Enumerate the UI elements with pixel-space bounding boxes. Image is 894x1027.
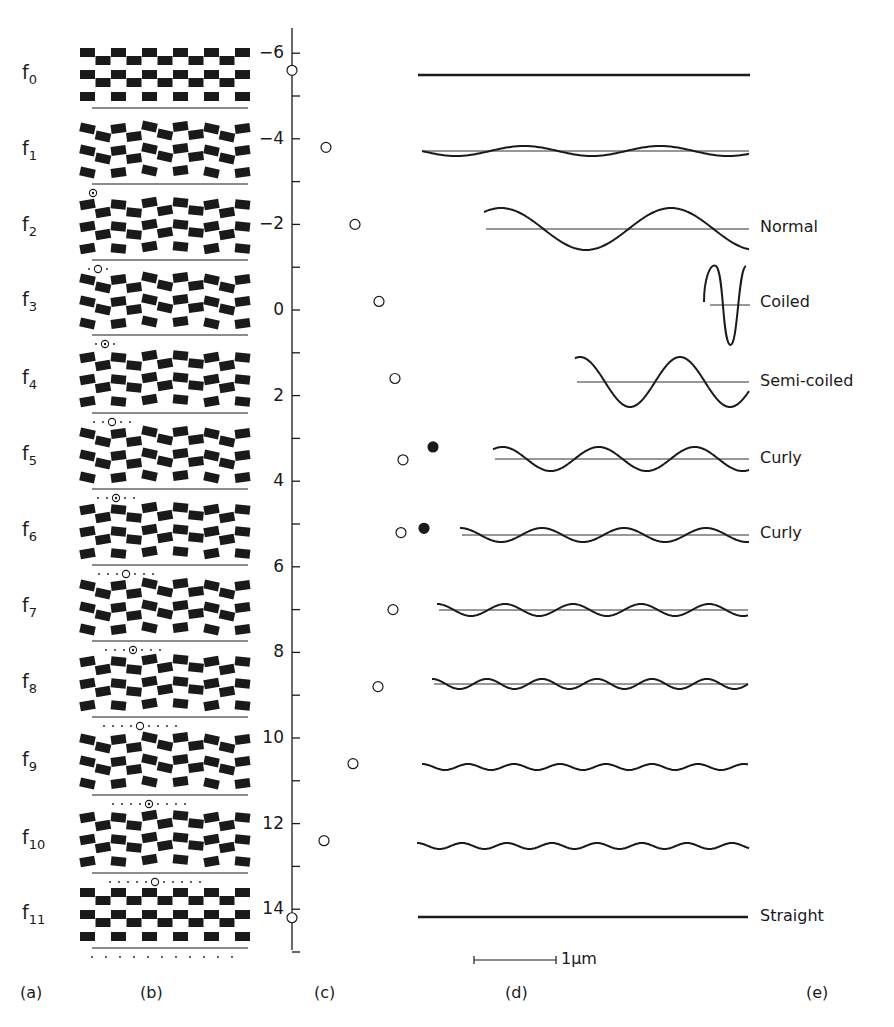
scale-bar [474, 956, 556, 964]
figure-canvas [0, 0, 894, 1027]
open-circle-point [390, 373, 400, 383]
axis-marker-icon [151, 878, 158, 885]
row-label-f11: f11 [22, 903, 45, 926]
shape-label-curly: Curly [760, 450, 802, 466]
axis-marker-icon [122, 570, 129, 577]
axis-tick-label: −2 [244, 215, 284, 232]
open-circle-point [398, 455, 408, 465]
axis-tick-label: 2 [244, 387, 284, 404]
lattice-f1 [79, 121, 250, 197]
open-circle-point [388, 605, 398, 615]
axis-tick-label: 4 [244, 472, 284, 489]
axis-marker-icon [136, 722, 143, 729]
open-circle-point [287, 913, 297, 923]
axis-tick-label: −4 [244, 130, 284, 147]
axis-tick-label: 6 [244, 558, 284, 575]
filled-circle-point [428, 442, 438, 452]
open-circle-point [374, 296, 384, 306]
row-label-f8: f8 [22, 672, 37, 695]
lattice-f9 [79, 732, 250, 808]
row-label-f0: f0 [22, 63, 37, 86]
row-label-f5: f5 [22, 444, 37, 467]
shape-f10 [417, 843, 749, 849]
shape-label-coiled: Coiled [760, 294, 810, 310]
protofilament-lattices [79, 48, 250, 958]
lattice-f7 [79, 578, 250, 654]
lattice-f8 [79, 654, 250, 730]
shape-label-semi-coiled: Semi-coiled [760, 373, 853, 389]
axis-marker-icon [94, 265, 101, 272]
value-axis [292, 28, 300, 952]
axis-tick-label: −6 [244, 44, 284, 61]
lattice-f3 [79, 272, 250, 348]
lattice-f4 [79, 350, 250, 426]
row-label-f1: f1 [22, 139, 37, 162]
row-label-f7: f7 [22, 596, 37, 619]
supercoil-shapes [417, 75, 750, 917]
scale-bar-label: 1µm [561, 951, 597, 967]
panel-label-b: (b) [140, 985, 163, 1001]
panel-label-e: (e) [806, 985, 828, 1001]
shape-label-curly: Curly [760, 525, 802, 541]
row-label-f3: f3 [22, 290, 37, 313]
row-label-f9: f9 [22, 750, 37, 773]
lattice-f5 [79, 426, 250, 502]
open-circle-point [287, 65, 297, 75]
row-label-f4: f4 [22, 368, 37, 391]
lattice-f6 [79, 502, 250, 578]
axis-tick-label: 0 [244, 301, 284, 318]
open-circle-point [348, 759, 358, 769]
microtubule-protofilament-figure: f0f1f2f3f4f5f6f7f8f9f10f11 −6−4−20246810… [0, 0, 894, 1027]
axis-marker-icon [108, 418, 115, 425]
axis-tick-label: 12 [244, 815, 284, 832]
lattice-f2 [79, 197, 250, 273]
row-label-f2: f2 [22, 215, 37, 238]
open-circle-point [373, 682, 383, 692]
lattice-f10 [79, 810, 250, 886]
panel-label-a: (a) [20, 985, 42, 1001]
data-points [287, 65, 438, 922]
shape-label-straight: Straight [760, 908, 824, 924]
open-circle-point [319, 836, 329, 846]
axis-tick-label: 14 [244, 900, 284, 917]
lattice-f0 [80, 48, 250, 108]
shape-f9 [422, 764, 748, 770]
row-label-f6: f6 [22, 520, 37, 543]
panel-label-c: (c) [314, 985, 335, 1001]
filled-circle-point [419, 523, 429, 533]
open-circle-point [321, 142, 331, 152]
shape-label-normal: Normal [760, 219, 818, 235]
axis-tick-label: 8 [244, 643, 284, 660]
panel-label-d: (d) [505, 985, 528, 1001]
row-label-f10: f10 [22, 828, 45, 851]
lattice-f11 [80, 888, 250, 958]
axis-tick-label: 10 [244, 729, 284, 746]
open-circle-point [396, 528, 406, 538]
open-circle-point [350, 219, 360, 229]
